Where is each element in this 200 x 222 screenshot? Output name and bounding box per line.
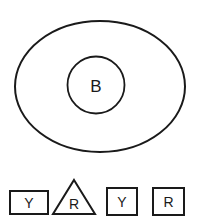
- square-label: R: [163, 194, 173, 210]
- figure-root: B Y R Y R: [0, 0, 200, 222]
- shape-triangle-r: R: [53, 180, 95, 214]
- shape-square-r: R: [153, 188, 184, 215]
- outer-ellipse-group: B: [15, 21, 185, 152]
- rectangle-label: Y: [24, 195, 34, 211]
- square-label: Y: [117, 194, 127, 210]
- diagram-canvas: B Y R Y R: [0, 0, 200, 222]
- bottom-shape-row: Y R Y R: [10, 180, 184, 215]
- triangle-label: R: [69, 196, 79, 212]
- shape-rectangle-y: Y: [10, 191, 48, 214]
- shape-square-y: Y: [107, 188, 137, 215]
- inner-circle-label: B: [90, 77, 101, 96]
